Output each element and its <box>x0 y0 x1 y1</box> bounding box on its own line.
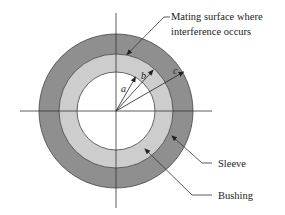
mating-surface-label-line1: Mating surface where <box>171 11 263 22</box>
radius-c-label: c <box>173 65 178 76</box>
sleeve-label: Sleeve <box>218 158 246 169</box>
radius-a-label: a <box>121 83 126 94</box>
mating-surface-label-line2: interference occurs <box>171 26 251 37</box>
radius-b-label: b <box>141 70 146 81</box>
bushing-label: Bushing <box>218 190 254 201</box>
bushing-sleeve-diagram: a b c Mating surface where interference … <box>0 0 285 215</box>
